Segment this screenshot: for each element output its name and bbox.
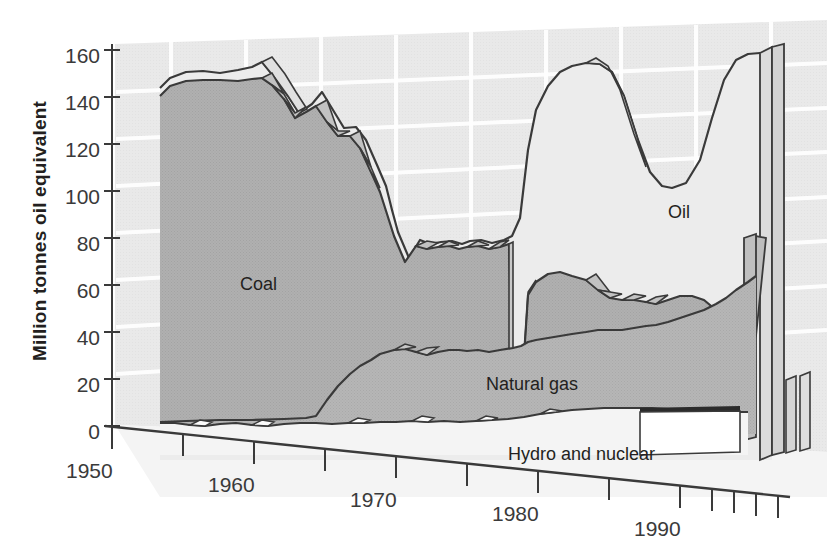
x-tick-1960: 1960 <box>208 473 255 496</box>
chart-figure: Million tonnes oil equivalent 160 140 12… <box>0 0 827 544</box>
series-label-oil: Oil <box>668 202 690 222</box>
x-tick-1970: 1970 <box>350 488 397 511</box>
chart-plot-area: 1950 1960 1970 1980 1990 Coal Oil Natura… <box>0 0 827 544</box>
x-tick-1990: 1990 <box>634 517 681 540</box>
series-label-coal: Coal <box>240 274 277 294</box>
x-tick-1950: 1950 <box>66 459 113 482</box>
x-tick-1980: 1980 <box>492 502 539 525</box>
series-label-natural-gas: Natural gas <box>486 374 578 394</box>
series-label-hydro-and-nuclear: Hydro and nuclear <box>508 444 655 464</box>
